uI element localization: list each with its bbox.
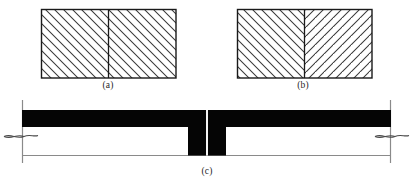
panel-b-left-part xyxy=(238,10,305,79)
panel-c xyxy=(4,100,409,163)
figure-root: (a) (b) (c) xyxy=(0,0,413,188)
panel-b-right-part xyxy=(305,10,373,79)
panel-c-left-member xyxy=(22,110,206,156)
panel-a-caption: (a) xyxy=(78,80,138,91)
panel-c-caption: (c) xyxy=(177,166,237,177)
panel-b-caption: (b) xyxy=(273,80,333,91)
panel-a-left-part xyxy=(42,10,109,79)
panel-c-right-break-symbol xyxy=(375,135,409,137)
panel-a-right-part xyxy=(109,10,177,79)
technical-figure xyxy=(0,0,413,188)
panel-b xyxy=(238,10,373,79)
panel-c-right-member xyxy=(208,110,391,156)
panel-a xyxy=(42,10,177,79)
panel-c-left-break-symbol xyxy=(4,135,38,137)
